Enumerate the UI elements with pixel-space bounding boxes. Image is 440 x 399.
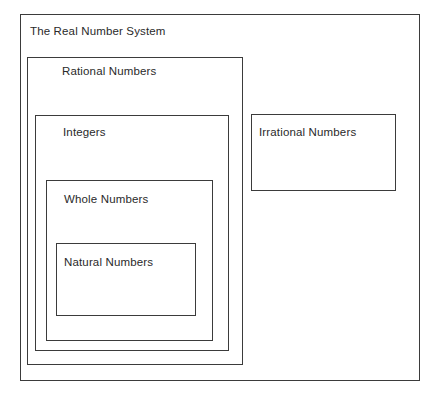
set-label-integers: Integers	[63, 126, 106, 139]
set-label-natural-numbers: Natural Numbers	[64, 256, 153, 269]
set-label-rational-numbers: Rational Numbers	[62, 65, 156, 78]
diagram-canvas: The Real Number System Rational Numbers …	[0, 0, 440, 399]
set-box-natural-numbers[interactable]	[56, 243, 196, 316]
set-label-irrational-numbers: Irrational Numbers	[259, 126, 356, 139]
set-label-whole-numbers: Whole Numbers	[64, 193, 148, 206]
set-label-real-numbers: The Real Number System	[30, 25, 166, 38]
